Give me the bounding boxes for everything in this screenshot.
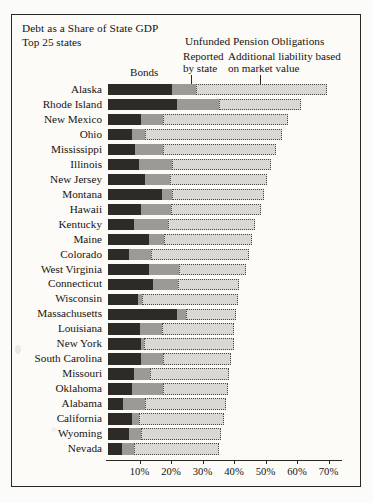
bar-segment-bonds (108, 279, 153, 290)
bar-label-wisconsin: Wisconsin (55, 292, 102, 306)
x-axis-tick (329, 461, 330, 464)
bar-segment-bonds (108, 219, 134, 230)
bar-label-new-jersey: New Jersey (50, 173, 102, 187)
chart-frame: Debt as a Share of State GDP Top 25 stat… (11, 14, 361, 487)
bar-segment-bonds (108, 234, 149, 245)
x-axis-label-20: 20% (161, 466, 180, 477)
stacked-bar-new-jersey (108, 174, 267, 185)
bar-label-alaska: Alaska (71, 83, 102, 97)
stacked-bar-west-virginia (108, 264, 246, 275)
bar-segment-market (145, 398, 226, 409)
bar-label-ohio: Ohio (80, 128, 102, 142)
bar-segment-bonds (108, 84, 172, 95)
bar-segment-market (172, 189, 264, 200)
stacked-bar-illinois (108, 159, 271, 170)
bar-label-maine: Maine (73, 233, 102, 247)
bar-segment-market (134, 443, 220, 454)
bar-label-oklahoma: Oklahoma (55, 382, 102, 396)
x-axis-label-50: 50% (256, 466, 275, 477)
x-axis-tick (297, 461, 298, 464)
bar-segment-market (171, 204, 261, 215)
stacked-bar-alaska (108, 84, 327, 95)
bar-segment-reported (132, 413, 139, 424)
bar-segment-market (163, 383, 228, 394)
plot-area: AlaskaRhode IslandNew MexicoOhioMississi… (12, 15, 360, 486)
bar-segment-market (179, 264, 246, 275)
bar-segment-market (170, 174, 267, 185)
bar-segment-bonds (108, 428, 129, 439)
bar-segment-market (172, 159, 271, 170)
bar-segment-reported (135, 144, 163, 155)
bar-segment-market (144, 338, 234, 349)
bar-segment-reported (134, 368, 150, 379)
bar-segment-reported (141, 353, 163, 364)
bar-label-alabama: Alabama (62, 397, 102, 411)
bar-segment-reported (153, 279, 178, 290)
bar-label-new-mexico: New Mexico (44, 113, 102, 127)
bar-segment-reported (149, 234, 164, 245)
bar-segment-reported (141, 204, 171, 215)
bar-segment-bonds (108, 443, 122, 454)
stacked-bar-california (108, 413, 224, 424)
bar-segment-market (150, 368, 229, 379)
bar-segment-bonds (108, 368, 134, 379)
stacked-bar-wisconsin (108, 294, 238, 305)
bar-label-mississippi: Mississippi (51, 143, 102, 157)
bar-label-south-carolina: South Carolina (35, 352, 102, 366)
bar-label-connecticut: Connecticut (48, 277, 102, 291)
bar-label-illinois: Illinois (70, 158, 102, 172)
x-axis-label-60: 60% (287, 466, 306, 477)
bar-segment-market (163, 353, 230, 364)
bar-segment-reported (129, 249, 151, 260)
stacked-bar-mississippi (108, 144, 276, 155)
bar-label-wyoming: Wyoming (58, 427, 102, 441)
bar-segment-bonds (108, 264, 149, 275)
bar-label-missouri: Missouri (62, 367, 102, 381)
stacked-bar-connecticut (108, 279, 239, 290)
bar-segment-market (151, 249, 249, 260)
stacked-bar-wyoming (108, 428, 221, 439)
bar-segment-bonds (108, 383, 132, 394)
bar-segment-bonds (108, 249, 129, 260)
bar-segment-market (178, 279, 239, 290)
bar-segment-bonds (108, 144, 135, 155)
bar-segment-market (163, 144, 275, 155)
bar-segment-reported (122, 443, 134, 454)
bar-segment-reported (132, 129, 146, 140)
stacked-bar-new-york (108, 338, 234, 349)
bar-segment-market (163, 114, 287, 125)
bar-segment-bonds (108, 353, 141, 364)
stacked-bar-kentucky (108, 219, 255, 230)
bar-segment-market (141, 428, 221, 439)
stacked-bar-rhode-island (108, 99, 301, 110)
stacked-bar-massachusetts (108, 309, 236, 320)
stacked-bar-new-mexico (108, 114, 288, 125)
bar-label-west-virginia: West Virginia (41, 263, 102, 277)
x-axis-label-30: 30% (193, 466, 212, 477)
x-axis-tick (266, 461, 267, 464)
bar-label-hawaii: Hawaii (70, 203, 102, 217)
bar-segment-bonds (108, 323, 140, 334)
bar-label-colorado: Colorado (60, 248, 102, 262)
x-axis-tick (171, 461, 172, 464)
bar-segment-bonds (108, 174, 145, 185)
bar-segment-market (145, 129, 281, 140)
bar-segment-reported (140, 323, 162, 334)
stacked-bar-missouri (108, 368, 229, 379)
bar-segment-reported (129, 428, 141, 439)
x-axis-line (106, 460, 342, 461)
bar-label-california: California (57, 412, 102, 426)
bar-segment-reported (177, 309, 186, 320)
bar-label-massachusetts: Massachusetts (37, 307, 102, 321)
bar-segment-reported (172, 84, 196, 95)
bar-label-montana: Montana (62, 188, 102, 202)
bar-segment-reported (132, 383, 164, 394)
bar-segment-reported (134, 219, 169, 230)
bar-segment-market (168, 219, 255, 230)
bar-segment-reported (177, 99, 219, 110)
x-axis-label-40: 40% (224, 466, 243, 477)
bar-segment-market (219, 99, 302, 110)
bar-label-nevada: Nevada (68, 442, 102, 456)
bar-segment-market (142, 294, 238, 305)
x-axis-label-70: 70% (319, 466, 338, 477)
